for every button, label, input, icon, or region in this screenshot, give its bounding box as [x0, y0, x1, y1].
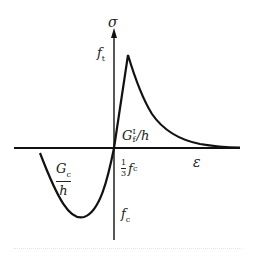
compressive-energy-numerator: G [56, 161, 66, 176]
stress-axis-label: σ [108, 15, 118, 29]
compression-curve [40, 148, 114, 217]
tensile-strength-label: ft [97, 46, 105, 59]
tensile-strength-sub: t [102, 54, 105, 63]
compressive-strength-label: fc [121, 207, 130, 220]
one-third-denominator: 3 [121, 170, 126, 178]
fracture-energy-tail: /h [137, 128, 150, 143]
cropped-caption-remnant [14, 248, 242, 253]
fracture-energy-base: G [122, 128, 132, 143]
strain-axis-label: ε [193, 155, 201, 169]
compressive-energy-sub: c [66, 170, 70, 179]
fraction-bar [56, 181, 71, 182]
fracture-energy-sub: f [132, 136, 135, 144]
compressive-energy-denominator: h [59, 184, 67, 197]
compressive-strength-sub: c [126, 215, 130, 224]
one-third-numerator: 1 [121, 159, 126, 167]
compressive-energy-label: Gc h [56, 162, 71, 197]
one-third-fc-label: 1 3 fc [121, 159, 137, 178]
fracture-energy-label: GIf/h [122, 128, 149, 144]
